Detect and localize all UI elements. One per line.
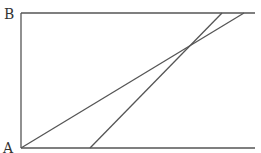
diagonal-from-a-line (21, 13, 244, 148)
diagram-canvas: B A (0, 0, 261, 153)
label-b: B (4, 6, 14, 22)
steep-diagonal-line (90, 13, 222, 148)
label-a: A (2, 140, 14, 153)
